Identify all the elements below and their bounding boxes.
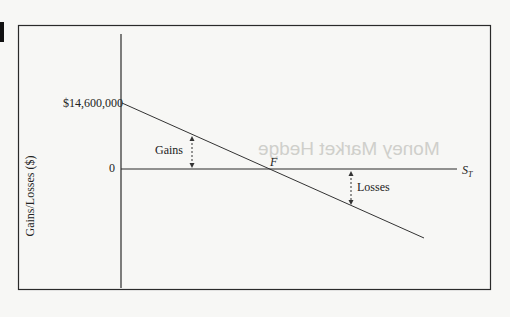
losses-label: Losses bbox=[357, 180, 390, 195]
x-axis-label-sub: T bbox=[468, 170, 472, 179]
chart-canvas bbox=[0, 0, 510, 317]
figure-frame bbox=[19, 26, 491, 290]
x-axis-label: ST bbox=[462, 163, 472, 179]
gains-label: Gains bbox=[155, 143, 183, 158]
f-marker-label: F bbox=[270, 155, 277, 170]
y-tick-zero: 0 bbox=[109, 161, 115, 176]
y-tick-top: $14,600,000 bbox=[63, 96, 123, 111]
y-axis-title: Gains/Losses ($) bbox=[23, 156, 38, 237]
payoff-line bbox=[122, 103, 424, 238]
